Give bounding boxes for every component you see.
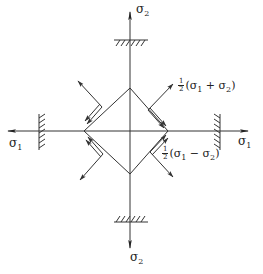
label-sigma1-left: σ1: [9, 137, 22, 152]
bottom-support-hatch: [114, 216, 148, 222]
fraction-half: 12: [162, 146, 168, 161]
diagram-graphics: [0, 0, 263, 274]
subscript: 2: [144, 9, 149, 18]
label-sigma2-bottom: σ2: [130, 251, 143, 266]
sigma-symbol: σ: [9, 136, 17, 150]
lower-left-face-stress: [80, 137, 103, 180]
subscript: 1: [246, 141, 251, 150]
right-support-hatch: [214, 114, 220, 150]
label-normal-stress: 12(σ1 + σ2): [178, 78, 235, 94]
subscript: 2: [138, 257, 143, 266]
subscript: 1: [17, 143, 22, 152]
top-support-hatch: [114, 40, 148, 46]
sigma-symbol: σ: [136, 2, 144, 16]
label-sigma2-top: σ2: [136, 3, 149, 18]
left-support-hatch: [39, 114, 45, 150]
sigma-symbol: σ: [238, 134, 246, 148]
label-shear-stress: 12(σ1 − σ2): [162, 146, 219, 162]
sigma-symbol: σ: [130, 250, 138, 264]
fraction-half: 12: [178, 78, 184, 93]
label-sigma1-right: σ1: [238, 135, 251, 150]
upper-right-face-stress: [148, 84, 173, 128]
stress-diagram: σ2 σ2 σ1 σ1 12(σ1 + σ2) 12(σ1 − σ2): [0, 0, 263, 274]
